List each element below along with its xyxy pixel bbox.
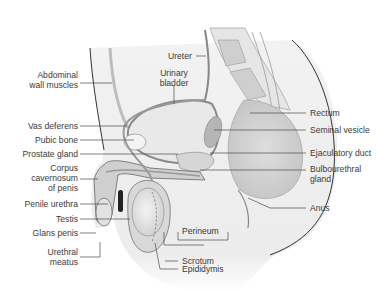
label-seminal-vesicle: Seminal vesicle [310,125,370,135]
anatomy-diagram: Abdominal wall muscles Vas deferens Pubi… [0,0,392,291]
label-line: wall muscles [2,80,78,90]
label-penile-urethra: Penile urethra [2,199,78,209]
label-line: meatus [2,257,78,267]
pubic-bone [124,134,146,150]
label-rectum: Rectum [310,108,340,118]
label-urinary-bladder: Urinary bladder [152,68,196,88]
label-ureter: Ureter [168,51,192,61]
label-prostate-gland: Prostate gland [2,149,78,159]
label-vas-deferens: Vas deferens [2,121,78,131]
glans [96,198,112,226]
label-corpus-cavernosum: Corpus cavernosum of penis [2,163,78,193]
label-ejaculatory-duct: Ejaculatory duct [310,148,371,158]
label-epididymis: Epididymis [182,264,224,274]
label-bulbourethral-gland: Bulbourethral gland [310,164,361,184]
label-line: gland [310,174,361,184]
testis [132,188,164,236]
label-pubic-bone: Pubic bone [2,135,78,145]
label-glans-penis: Glans penis [2,228,78,238]
label-line: Corpus [2,163,78,173]
label-urethral-meatus: Urethral meatus [2,247,78,267]
shadow [118,190,123,212]
prostate [176,152,214,171]
label-perineum: Perineum [182,226,219,236]
label-anus: Anus [310,203,330,213]
label-line: Bulbourethral [310,164,361,174]
label-line: Urinary [152,68,196,78]
label-line: Abdominal [2,70,78,80]
label-line: Urethral [2,247,78,257]
label-line: cavernosum [2,173,78,183]
label-abdominal-wall-muscles: Abdominal wall muscles [2,70,78,90]
label-line: bladder [152,78,196,88]
label-testis: Testis [2,214,78,224]
label-line: of penis [2,183,78,193]
